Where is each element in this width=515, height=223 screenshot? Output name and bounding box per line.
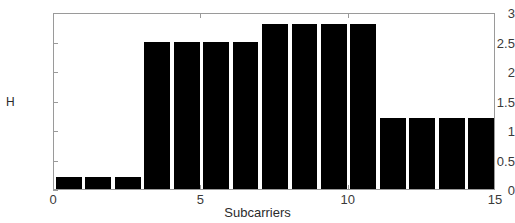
y-tick-label: 3 bbox=[467, 6, 515, 21]
bar bbox=[321, 24, 347, 189]
x-tick-mark bbox=[200, 185, 201, 190]
y-tick-label: 1 bbox=[467, 124, 515, 139]
bar bbox=[350, 24, 376, 189]
bar bbox=[292, 24, 318, 189]
y-tick-mark bbox=[53, 43, 58, 44]
y-tick-mark bbox=[53, 72, 58, 73]
bar bbox=[56, 177, 82, 189]
y-axis-label: H bbox=[6, 95, 15, 109]
bar bbox=[380, 118, 406, 189]
bar bbox=[174, 42, 200, 190]
bar bbox=[115, 177, 141, 189]
y-tick-mark bbox=[53, 131, 58, 132]
bar bbox=[233, 42, 259, 190]
bar bbox=[85, 177, 111, 189]
x-tick-mark-top bbox=[53, 13, 54, 18]
bar bbox=[439, 118, 465, 189]
x-tick-mark bbox=[494, 185, 495, 190]
bar bbox=[144, 42, 170, 190]
y-tick-label: 0.5 bbox=[467, 153, 515, 168]
x-tick-mark-top bbox=[348, 13, 349, 18]
y-tick-label: 2.5 bbox=[467, 35, 515, 50]
x-tick-mark-top bbox=[494, 13, 495, 18]
x-tick-mark-top bbox=[200, 13, 201, 18]
y-tick-mark bbox=[53, 190, 58, 191]
y-tick-mark bbox=[53, 102, 58, 103]
x-tick-mark bbox=[53, 185, 54, 190]
bar bbox=[409, 118, 435, 189]
x-axis-label: Subcarriers bbox=[0, 205, 515, 220]
y-tick-label: 2 bbox=[467, 65, 515, 80]
bar bbox=[262, 24, 288, 189]
bar bbox=[203, 42, 229, 190]
bar-chart-figure: 00.511.522.53 051015 H Subcarriers bbox=[0, 0, 515, 223]
x-tick-mark bbox=[348, 185, 349, 190]
y-tick-label: 1.5 bbox=[467, 94, 515, 109]
y-tick-mark bbox=[53, 161, 58, 162]
plot-area bbox=[53, 13, 495, 190]
